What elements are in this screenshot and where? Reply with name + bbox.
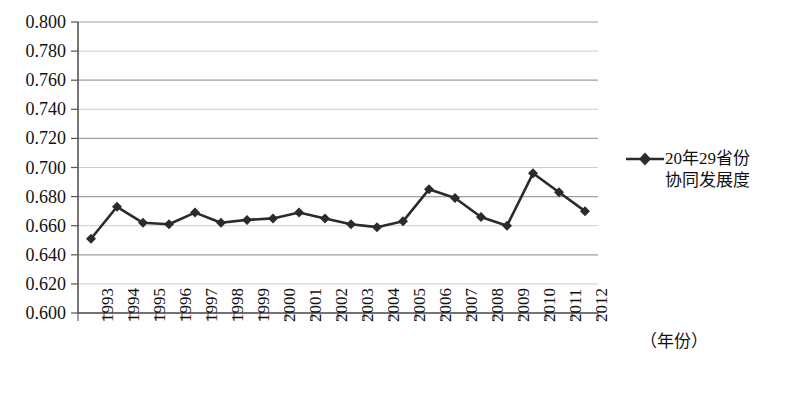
x-axis-tick-label: 2001	[307, 288, 324, 322]
x-axis-tick-label: 2000	[281, 288, 298, 322]
data-point-marker	[268, 213, 278, 223]
x-axis-tick-label: 1998	[229, 288, 246, 322]
x-axis-tick-label: 2006	[437, 288, 454, 322]
chart-container: 0.8000.7800.7600.7400.7200.7000.6800.660…	[0, 0, 790, 402]
data-point-marker	[190, 208, 200, 218]
x-axis-tick-label: 1993	[99, 288, 116, 322]
x-axis-tick-label: 2009	[515, 288, 532, 322]
data-point-marker	[346, 219, 356, 229]
legend-label: 20年29省份 协同发展度	[665, 148, 777, 192]
data-point-marker	[372, 222, 382, 232]
x-axis-tick-label: 1994	[125, 288, 142, 322]
x-axis-tick-label: 1999	[255, 288, 272, 322]
x-axis-tick-label: 2007	[463, 288, 480, 322]
series-line	[91, 173, 585, 238]
legend-label-line1: 20年29省份	[665, 148, 777, 170]
data-point-marker	[242, 215, 252, 225]
x-axis-tick-label: 1997	[203, 288, 220, 322]
x-axis-title: （年份）	[640, 333, 708, 351]
x-axis-tick-label: 2011	[567, 289, 584, 322]
x-axis-tick-label: 2002	[333, 288, 350, 322]
legend-item[interactable]: 20年29省份 协同发展度	[625, 148, 785, 192]
legend-line-marker-icon	[625, 149, 665, 169]
data-point-marker	[164, 219, 174, 229]
data-point-marker	[502, 221, 512, 231]
chart-legend: 20年29省份 协同发展度	[625, 148, 785, 192]
x-axis-tick-label: 2010	[541, 288, 558, 322]
data-point-marker	[294, 208, 304, 218]
legend-label-line2: 协同发展度	[665, 170, 777, 192]
x-axis-tick-label: 2004	[385, 288, 402, 322]
x-axis-tick-label: 2012	[593, 288, 610, 322]
x-axis-tick-label: 1996	[177, 288, 194, 322]
x-axis-tick-label: 2003	[359, 288, 376, 322]
data-point-marker	[320, 213, 330, 223]
x-axis-tick-label: 2008	[489, 288, 506, 322]
data-point-marker	[216, 218, 226, 228]
x-axis-tick-label: 1995	[151, 288, 168, 322]
x-axis-tick-label: 2005	[411, 288, 428, 322]
